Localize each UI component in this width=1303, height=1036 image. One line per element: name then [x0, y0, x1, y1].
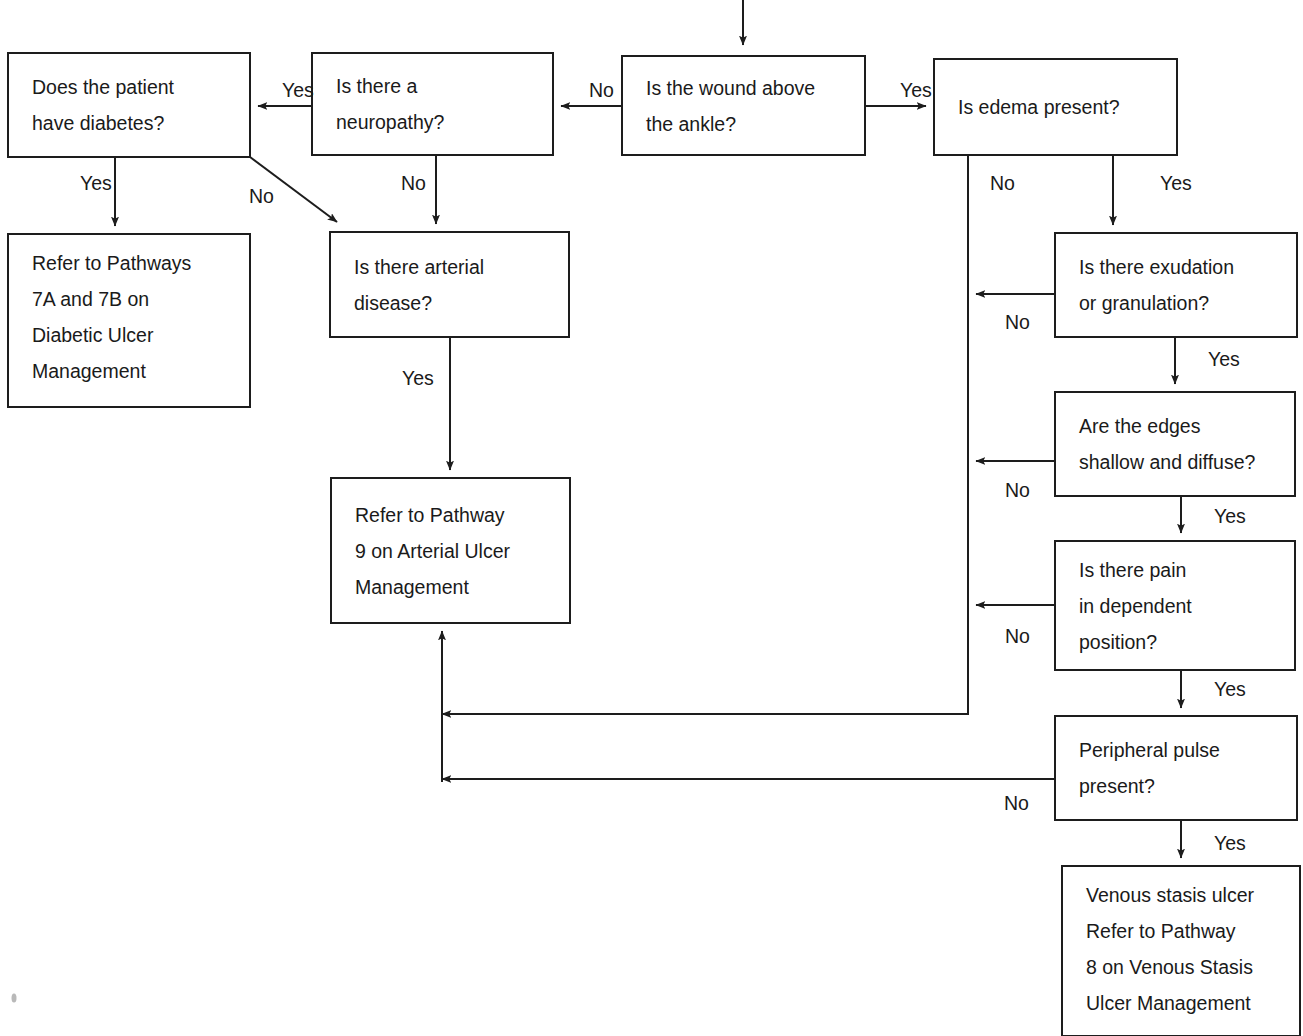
node-box-wound_above_ankle[interactable]	[622, 56, 865, 155]
node-label-diabetes: have diabetes?	[32, 112, 164, 134]
node-label-refer_9: Management	[355, 576, 469, 598]
node-exudation[interactable]: Is there exudationor granulation?	[1055, 233, 1297, 337]
label-diabetes-no: No	[249, 185, 274, 207]
node-venous_stasis[interactable]: Venous stasis ulcerRefer to Pathway8 on …	[1062, 866, 1300, 1036]
label-wound-no: No	[589, 79, 614, 101]
node-neuropathy[interactable]: Is there aneuropathy?	[312, 53, 553, 155]
node-label-edges_shallow: shallow and diffuse?	[1079, 451, 1256, 473]
node-peripheral_pulse[interactable]: Peripheral pulsepresent?	[1055, 716, 1297, 820]
node-edges_shallow[interactable]: Are the edgesshallow and diffuse?	[1055, 392, 1295, 496]
node-label-venous_stasis: 8 on Venous Stasis	[1086, 956, 1253, 978]
node-label-wound_above_ankle: the ankle?	[646, 113, 736, 135]
label-wound-yes: Yes	[900, 79, 932, 101]
node-label-arterial_disease: disease?	[354, 292, 432, 314]
node-diabetes[interactable]: Does the patienthave diabetes?	[8, 53, 250, 157]
label-pain-yes: Yes	[1214, 678, 1246, 700]
label-arterial-yes: Yes	[402, 367, 434, 389]
node-label-refer_9: Refer to Pathway	[355, 504, 505, 526]
node-refer_7a_7b[interactable]: Refer to Pathways7A and 7B onDiabetic Ul…	[8, 234, 250, 407]
node-label-peripheral_pulse: present?	[1079, 775, 1155, 797]
node-label-neuropathy: neuropathy?	[336, 111, 445, 133]
node-label-exudation: or granulation?	[1079, 292, 1209, 314]
label-edges-no: No	[1005, 479, 1030, 501]
page-speck	[12, 994, 17, 1003]
node-label-pain_dependent: Is there pain	[1079, 559, 1186, 581]
label-pulse-no: No	[1004, 792, 1029, 814]
node-box-diabetes[interactable]	[8, 53, 250, 157]
node-box-arterial_disease[interactable]	[330, 232, 569, 337]
label-edges-yes: Yes	[1214, 505, 1246, 527]
node-label-pain_dependent: position?	[1079, 631, 1157, 653]
label-diabetes-yes: Yes	[80, 172, 112, 194]
node-label-wound_above_ankle: Is the wound above	[646, 77, 815, 99]
node-label-edema: Is edema present?	[958, 96, 1120, 118]
node-box-edges_shallow[interactable]	[1055, 392, 1295, 496]
node-label-arterial_disease: Is there arterial	[354, 256, 484, 278]
node-refer_9[interactable]: Refer to Pathway9 on Arterial UlcerManag…	[331, 478, 570, 623]
label-edema-no: No	[990, 172, 1015, 194]
node-label-venous_stasis: Ulcer Management	[1086, 992, 1251, 1014]
node-layer: Is the wound abovethe ankle?Is there ane…	[8, 53, 1300, 1036]
node-pain_dependent[interactable]: Is there painin dependentposition?	[1055, 541, 1295, 670]
node-label-peripheral_pulse: Peripheral pulse	[1079, 739, 1220, 761]
node-box-exudation[interactable]	[1055, 233, 1297, 337]
node-label-refer_7a_7b: Refer to Pathways	[32, 252, 192, 274]
node-label-neuropathy: Is there a	[336, 75, 417, 97]
node-box-peripheral_pulse[interactable]	[1055, 716, 1297, 820]
label-pulse-yes: Yes	[1214, 832, 1246, 854]
node-label-refer_7a_7b: Diabetic Ulcer	[32, 324, 154, 346]
node-box-neuropathy[interactable]	[312, 53, 553, 155]
node-label-edges_shallow: Are the edges	[1079, 415, 1201, 437]
flowchart-svg: Is the wound abovethe ankle?Is there ane…	[0, 0, 1303, 1036]
node-label-exudation: Is there exudation	[1079, 256, 1234, 278]
label-exudation-yes: Yes	[1208, 348, 1240, 370]
label-edema-yes: Yes	[1160, 172, 1192, 194]
node-label-refer_7a_7b: 7A and 7B on	[32, 288, 149, 310]
node-arterial_disease[interactable]: Is there arterialdisease?	[330, 232, 569, 337]
node-label-venous_stasis: Refer to Pathway	[1086, 920, 1236, 942]
node-label-diabetes: Does the patient	[32, 76, 175, 98]
node-label-refer_7a_7b: Management	[32, 360, 146, 382]
node-edema[interactable]: Is edema present?	[934, 59, 1177, 155]
node-label-pain_dependent: in dependent	[1079, 595, 1192, 617]
node-label-venous_stasis: Venous stasis ulcer	[1086, 884, 1255, 906]
label-neuropathy-yes: Yes	[282, 79, 314, 101]
label-pain-no: No	[1005, 625, 1030, 647]
diagram-canvas: Is the wound abovethe ankle?Is there ane…	[0, 0, 1303, 1036]
label-exudation-no: No	[1005, 311, 1030, 333]
label-neuropathy-no: No	[401, 172, 426, 194]
node-wound_above_ankle[interactable]: Is the wound abovethe ankle?	[622, 56, 865, 155]
node-label-refer_9: 9 on Arterial Ulcer	[355, 540, 510, 562]
